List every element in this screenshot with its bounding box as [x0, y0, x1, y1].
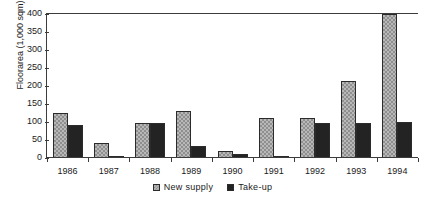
bar-new-supply	[259, 118, 274, 158]
x-tick-label: 1987	[99, 166, 119, 176]
x-tick-label: 1991	[264, 166, 284, 176]
legend-swatch-new-supply	[153, 184, 160, 191]
x-tick-mark	[253, 158, 254, 162]
bar-take-up	[356, 123, 371, 158]
y-tick-mark	[45, 32, 49, 33]
legend-label-take-up: Take-up	[238, 182, 272, 192]
x-tick-label: 1990	[222, 166, 242, 176]
y-tick-label: 350	[27, 26, 42, 36]
y-tick-label: 250	[27, 62, 42, 72]
x-tick-mark	[377, 158, 378, 162]
legend-item-take-up: Take-up	[227, 182, 272, 192]
legend-item-new-supply: New supply	[153, 182, 214, 192]
x-tick-label: 1993	[346, 166, 366, 176]
bar-new-supply	[300, 118, 315, 158]
y-tick-label: 150	[27, 98, 42, 108]
y-axis-title: Floorarea (1,000 sqm)	[15, 0, 25, 120]
y-tick-mark	[45, 140, 49, 141]
x-tick-label: 1989	[181, 166, 201, 176]
y-tick-label: 0	[37, 152, 42, 162]
y-tick-label: 400	[27, 8, 42, 18]
x-tick-mark	[418, 158, 419, 162]
x-tick-label: 1988	[140, 166, 160, 176]
x-tick-mark	[336, 158, 337, 162]
bar-new-supply	[135, 123, 150, 158]
x-tick-mark	[88, 158, 89, 162]
x-axis-line	[46, 157, 418, 158]
y-tick-mark	[45, 122, 49, 123]
y-tick-label: 50	[32, 134, 42, 144]
x-tick-mark	[171, 158, 172, 162]
y-tick-label: 200	[27, 80, 42, 90]
bar-new-supply	[382, 14, 397, 158]
legend-label-new-supply: New supply	[164, 182, 214, 192]
bar-new-supply	[53, 113, 68, 158]
y-tick-mark	[45, 86, 49, 87]
y-tick-label: 300	[27, 44, 42, 54]
y-tick-mark	[45, 14, 49, 15]
legend-swatch-take-up	[227, 184, 234, 191]
x-tick-mark	[212, 158, 213, 162]
y-tick-mark	[45, 68, 49, 69]
plot-area: 0501001502002503003504001986198719881989…	[46, 13, 418, 158]
chart-container: Floorarea (1,000 sqm) 050100150200250300…	[0, 0, 425, 201]
y-tick-label: 100	[27, 116, 42, 126]
bar-new-supply	[341, 81, 356, 158]
x-tick-label: 1992	[305, 166, 325, 176]
bar-take-up	[315, 123, 330, 158]
bar-new-supply	[94, 143, 109, 158]
bar-new-supply	[176, 111, 191, 158]
chart-legend: New supply Take-up	[0, 182, 425, 192]
y-tick-mark	[45, 50, 49, 51]
bar-take-up	[68, 125, 83, 158]
y-tick-mark	[45, 104, 49, 105]
bar-take-up	[150, 123, 165, 158]
x-tick-mark	[129, 158, 130, 162]
x-tick-mark	[47, 158, 48, 162]
x-tick-label: 1994	[387, 166, 407, 176]
x-tick-mark	[294, 158, 295, 162]
x-tick-label: 1986	[58, 166, 78, 176]
bar-take-up	[397, 122, 412, 158]
